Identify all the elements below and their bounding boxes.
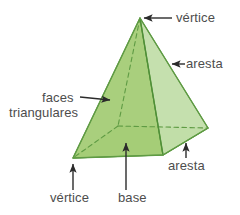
label-faces-triangulares: triangulares [9, 106, 78, 120]
label-aresta-right: aresta [186, 57, 223, 71]
pyramid-diagram: vértice aresta faces triangulares aresta… [0, 0, 240, 215]
label-faces: faces [42, 91, 74, 105]
label-vertice-bottom: vértice [50, 191, 89, 205]
label-base: base [118, 191, 147, 205]
label-aresta-bottom: aresta [168, 159, 205, 173]
label-vertice-top: vértice [176, 11, 215, 25]
